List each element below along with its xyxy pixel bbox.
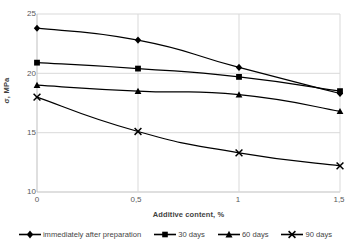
- series-0: [34, 25, 343, 97]
- square-marker-icon: [154, 229, 176, 240]
- series-1: [34, 60, 343, 94]
- square-data-point: [135, 66, 141, 72]
- legend-item-90-days[interactable]: 90 days: [281, 229, 332, 240]
- legend-label: 30 days: [178, 230, 205, 240]
- legend-label: 90 days: [305, 230, 332, 240]
- x-marker-icon: [281, 229, 303, 240]
- square-data-point: [236, 74, 242, 80]
- legend-item-30-days[interactable]: 30 days: [154, 229, 205, 240]
- diamond-data-point: [135, 37, 141, 44]
- diamond-data-point: [236, 64, 242, 71]
- legend-label: 60 days: [242, 230, 269, 240]
- series-2: [34, 82, 344, 114]
- legend-label: immediately after preparation: [43, 230, 141, 240]
- legend-item-60-days[interactable]: 60 days: [218, 229, 269, 240]
- diamond-data-point: [34, 25, 40, 32]
- x-axis-title: Additive content, %: [37, 210, 340, 219]
- square-data-point: [337, 88, 343, 94]
- triangle-marker-icon: [218, 229, 240, 240]
- line-chart: σ, MPa 25 20 15 10 0 0,5 1 1,5 immediate…: [0, 0, 351, 248]
- square-data-point: [34, 60, 40, 66]
- series-3: [34, 94, 344, 170]
- chart-legend: immediately after preparation 30 days 60…: [0, 229, 351, 240]
- diamond-marker-icon: [19, 229, 41, 240]
- legend-item-immediately-after-preparation[interactable]: immediately after preparation: [19, 229, 141, 240]
- data-series-layer: [34, 25, 344, 170]
